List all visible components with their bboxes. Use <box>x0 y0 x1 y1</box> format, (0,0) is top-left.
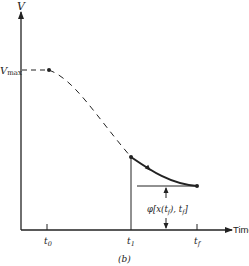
terminal-cost-label: φ[x(tf), tf] <box>147 204 188 216</box>
tick-label-t0: t0 <box>44 236 52 248</box>
tick-label-tf: tf <box>194 236 202 248</box>
dashed-trajectory <box>49 70 131 157</box>
optimal-trajectory <box>131 157 197 186</box>
x-axis-label: Time <box>233 224 249 235</box>
value-function-diagram: V Vmax Time t0 t1 tf φ[x(tf), tf] (b) <box>0 0 249 266</box>
tick-label-t1: t1 <box>127 236 135 248</box>
vmax-label: Vmax <box>0 65 22 77</box>
figure-caption: (b) <box>118 254 131 264</box>
y-axis-label: V <box>17 0 26 13</box>
